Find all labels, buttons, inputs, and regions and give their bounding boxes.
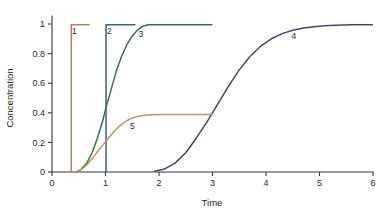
x-tick-label: 4 — [263, 178, 268, 188]
y-axis: 00.20.40.60.81 — [32, 16, 52, 177]
x-tick-label: 5 — [317, 178, 322, 188]
series-line-4 — [154, 25, 373, 172]
curve-label-1: 1 — [72, 26, 77, 36]
y-tick-label: 0.8 — [32, 49, 45, 59]
x-tick-label: 1 — [103, 178, 108, 188]
x-tick-label: 0 — [49, 178, 54, 188]
y-tick-label: 0 — [40, 167, 45, 177]
plot-area: 00.20.40.60.81 0123456 12345 Time Concen… — [0, 0, 389, 210]
curve-label-2: 2 — [107, 26, 112, 36]
curve-label-5: 5 — [130, 121, 135, 131]
curve-label-3: 3 — [138, 29, 143, 39]
series-line-1 — [71, 25, 89, 172]
y-tick-label: 1 — [40, 19, 45, 29]
y-axis-title: Concentration — [4, 68, 15, 127]
x-axis-title: Time — [202, 197, 223, 208]
concentration-vs-time-chart: 00.20.40.60.81 0123456 12345 Time Concen… — [0, 0, 389, 210]
curve-label-4: 4 — [291, 31, 296, 41]
series-line-3 — [77, 25, 213, 172]
y-tick-label: 0.4 — [32, 108, 45, 118]
x-axis: 0123456 — [49, 172, 375, 188]
y-tick-label: 0.6 — [32, 78, 45, 88]
x-tick-label: 2 — [156, 178, 161, 188]
x-tick-label: 6 — [370, 178, 375, 188]
x-tick-label: 3 — [210, 178, 215, 188]
series-group — [71, 25, 373, 172]
series-line-2 — [106, 25, 135, 172]
y-tick-label: 0.2 — [32, 138, 45, 148]
